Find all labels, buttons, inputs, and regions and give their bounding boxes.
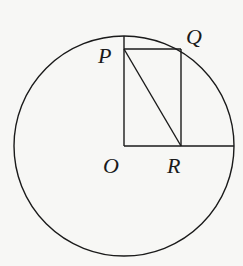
label-o: O: [103, 153, 119, 178]
segment-pr: [124, 49, 181, 146]
label-p: P: [97, 43, 111, 68]
label-q: Q: [186, 24, 202, 49]
geometry-diagram: P Q O R: [0, 0, 243, 266]
label-r: R: [166, 153, 181, 178]
